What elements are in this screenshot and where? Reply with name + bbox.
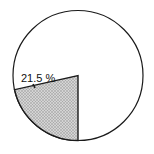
slice-label: 21.5 % [21, 72, 55, 84]
pie-chart: 21.5 % [0, 0, 154, 154]
